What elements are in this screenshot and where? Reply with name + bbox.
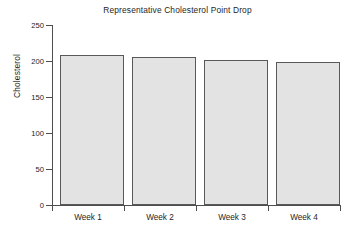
bar-week-2 xyxy=(132,57,196,205)
x-tick-label-week-2: Week 2 xyxy=(124,213,196,222)
chart-title: Representative Cholesterol Point Drop xyxy=(0,5,355,15)
y-tick-mark-150 xyxy=(46,97,52,98)
y-axis-line xyxy=(52,25,53,206)
y-tick-mark-200 xyxy=(46,61,52,62)
y-tick-label-50: 50 xyxy=(14,165,44,174)
bar-week-1 xyxy=(60,55,124,205)
y-tick-label-250: 250 xyxy=(14,21,44,30)
y-tick-label-150: 150 xyxy=(14,93,44,102)
y-tick-label-0: 0 xyxy=(14,201,44,210)
bar-chart-figure: Representative Cholesterol Point Drop Ch… xyxy=(0,0,355,237)
x-tick-label-week-4: Week 4 xyxy=(268,213,340,222)
bar-week-4 xyxy=(276,62,340,205)
bar-week-3 xyxy=(204,60,268,205)
x-tick-label-week-1: Week 1 xyxy=(52,213,124,222)
y-tick-mark-100 xyxy=(46,133,52,134)
y-tick-mark-50 xyxy=(46,169,52,170)
x-tick-mark-3 xyxy=(268,206,269,211)
x-tick-mark-0 xyxy=(52,206,53,211)
x-tick-mark-2 xyxy=(196,206,197,211)
x-tick-label-week-3: Week 3 xyxy=(196,213,268,222)
x-tick-mark-4 xyxy=(340,206,341,211)
x-tick-mark-1 xyxy=(124,206,125,211)
y-tick-mark-250 xyxy=(46,25,52,26)
y-tick-label-200: 200 xyxy=(14,57,44,66)
y-tick-label-100: 100 xyxy=(14,129,44,138)
